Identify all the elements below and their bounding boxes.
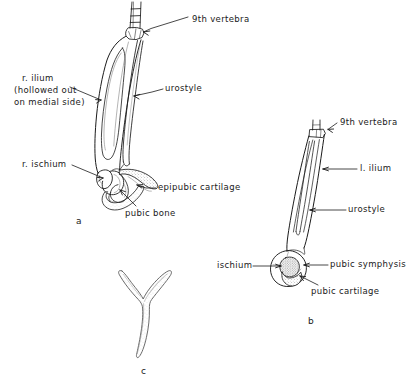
panel-a-leaders bbox=[70, 17, 188, 206]
panel-a-drawing bbox=[95, 2, 158, 210]
anatomy-illustration bbox=[0, 0, 420, 391]
label-r-ilium-note-line1: (hollowed out bbox=[14, 85, 77, 97]
vertebral-column-stub-b bbox=[313, 120, 320, 130]
ilium-acetabulum-junction-b bbox=[287, 248, 305, 254]
vertebral-column-stub-a bbox=[130, 2, 141, 28]
label-ischium-b: ischium bbox=[217, 260, 252, 272]
urostyle-a bbox=[123, 41, 143, 166]
label-r-ilium-note-line2: on medial side) bbox=[14, 97, 85, 109]
label-r-ilium-a: r. ilium bbox=[22, 73, 54, 85]
panel-b-drawing bbox=[271, 120, 326, 287]
label-urostyle-b: urostyle bbox=[348, 204, 385, 216]
panel-c-drawing bbox=[119, 271, 172, 358]
label-r-ischium-a: r. ischium bbox=[22, 159, 67, 171]
leader-9th-vertebra-a-arrow bbox=[144, 31, 150, 35]
pubic-bone-a bbox=[102, 186, 144, 210]
panel-label-a: a bbox=[76, 216, 82, 226]
panel-label-b: b bbox=[308, 316, 314, 326]
panel-label-c: c bbox=[141, 366, 146, 376]
label-9th-vertebra-b: 9th vertebra bbox=[340, 117, 397, 129]
label-l-ilium-b: l. ilium bbox=[360, 163, 391, 175]
leader-r-ischium-a bbox=[72, 165, 103, 178]
label-pubic-symphysis-b: pubic symphysis bbox=[330, 259, 406, 271]
label-urostyle-a: urostyle bbox=[165, 83, 202, 95]
ninth-vertebra-b bbox=[309, 130, 325, 138]
leader-9th-vertebra-a bbox=[144, 17, 189, 32]
figure-page: 9th vertebra r. ilium (hollowed out on m… bbox=[0, 0, 420, 391]
left-ilium-b bbox=[287, 134, 325, 251]
label-pubic-bone-a: pubic bone bbox=[125, 208, 176, 220]
leader-pubic-cartilage-b bbox=[300, 276, 318, 285]
ninth-vertebra-a bbox=[126, 28, 144, 40]
leader-9th-vertebra-b-arrow bbox=[328, 129, 334, 132]
leader-9th-vertebra-b bbox=[328, 123, 337, 129]
label-9th-vertebra-a: 9th vertebra bbox=[192, 14, 249, 26]
epipubic-element-c bbox=[119, 271, 172, 358]
label-epipubic-cartilage-a: epipubic cartilage bbox=[158, 182, 240, 194]
label-pubic-cartilage-b: pubic cartilage bbox=[311, 286, 379, 298]
leader-r-ischium-a-arrow bbox=[97, 177, 103, 181]
